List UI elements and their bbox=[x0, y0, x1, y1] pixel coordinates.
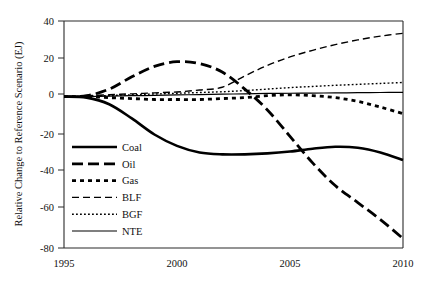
legend-label-nte: NTE bbox=[122, 226, 142, 237]
y-tick-label: -40 bbox=[40, 165, 54, 176]
y-tick-label: -80 bbox=[40, 243, 54, 254]
y-axis-title: Relative Change to Reference Scenario (E… bbox=[13, 41, 25, 227]
y-tick-label: 0 bbox=[49, 89, 54, 100]
x-tick-label: 1995 bbox=[54, 258, 75, 269]
legend-label-blf: BLF bbox=[122, 192, 141, 203]
legend-label-bgf: BGF bbox=[122, 209, 143, 220]
y-tick-label: 40 bbox=[44, 16, 55, 27]
y-tick-label: 20 bbox=[44, 53, 55, 64]
chart-container: 40 20 0 -20 -40 -60 -80 1995 2000 2005 2… bbox=[0, 0, 433, 290]
x-tick-label: 2010 bbox=[393, 258, 414, 269]
line-chart: 40 20 0 -20 -40 -60 -80 1995 2000 2005 2… bbox=[0, 0, 433, 290]
y-tick-label: -20 bbox=[40, 129, 54, 140]
legend-label-oil: Oil bbox=[122, 159, 136, 170]
x-tick-label: 2005 bbox=[280, 258, 301, 269]
legend-label-gas: Gas bbox=[122, 175, 138, 186]
chart-background bbox=[0, 0, 433, 290]
x-tick-label: 2000 bbox=[167, 258, 188, 269]
y-tick-label: -60 bbox=[40, 202, 54, 213]
legend-label-coal: Coal bbox=[122, 142, 142, 153]
